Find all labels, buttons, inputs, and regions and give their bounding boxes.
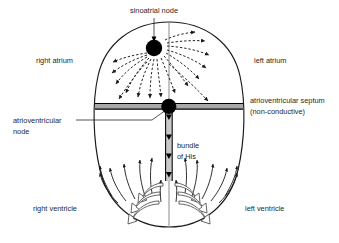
label-sinoatrial-node: sinoatrial node <box>130 6 178 15</box>
label-atrioventricular-node-line1: atrioventricular <box>13 116 62 125</box>
label-atrioventricular-septum-line1: atrioventricular septum <box>250 96 325 105</box>
label-right-atrium: right atrium <box>36 56 73 65</box>
label-bundle-of-his-line2: of His <box>177 152 196 161</box>
label-left-atrium: left atrium <box>254 56 286 65</box>
heart-conduction-diagram: sinoatrial node right atrium left atrium… <box>0 0 339 243</box>
label-left-ventricle: left ventricle <box>245 204 284 213</box>
bundle-of-his <box>166 109 173 181</box>
label-bundle-of-his-line1: bundle <box>177 141 199 150</box>
label-atrioventricular-septum-line2: (non-conductive) <box>250 107 305 116</box>
label-right-ventricle: right ventricle <box>33 204 77 213</box>
diagram-canvas: sinoatrial node right atrium left atrium… <box>0 0 339 243</box>
label-atrioventricular-node-line2: node <box>13 127 29 136</box>
